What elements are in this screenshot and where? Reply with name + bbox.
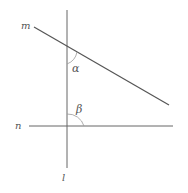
label-l: l	[62, 172, 65, 183]
label-alpha: α	[72, 62, 80, 75]
label-beta: β	[75, 103, 82, 116]
label-n: n	[15, 120, 21, 131]
geometry-diagram: m n l α β	[0, 0, 188, 193]
line-m	[34, 27, 169, 105]
label-m: m	[21, 20, 30, 31]
